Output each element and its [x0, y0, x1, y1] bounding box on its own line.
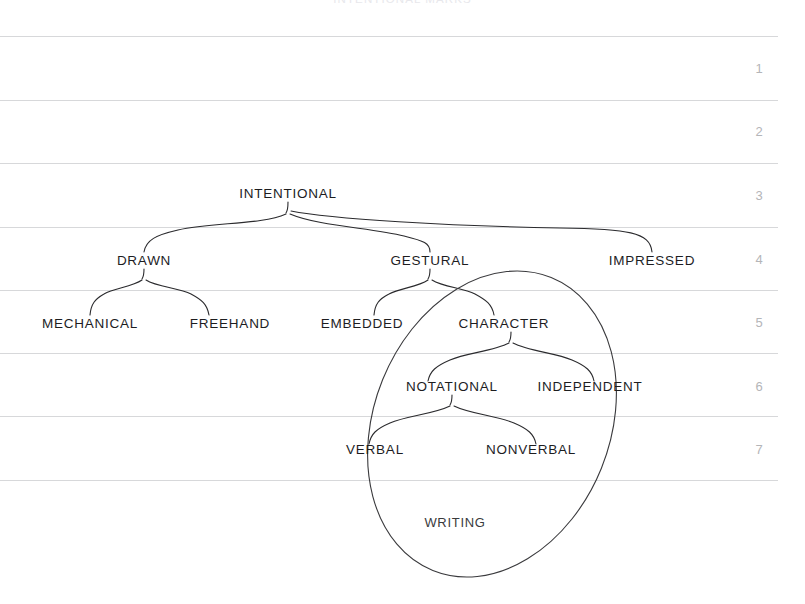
- node-verbal[interactable]: VERBAL: [346, 442, 404, 457]
- node-impressed[interactable]: IMPRESSED: [609, 253, 695, 268]
- figure-page: INTENTIONAL MARKS 1 2 3 4 5 6 7: [0, 0, 805, 604]
- node-independent[interactable]: INDEPENDENT: [537, 379, 642, 394]
- node-mechanical[interactable]: MECHANICAL: [42, 316, 138, 331]
- brace-drawn: [90, 269, 209, 315]
- node-notational[interactable]: NOTATIONAL: [406, 379, 498, 394]
- writing-grouping-ellipse: [323, 233, 660, 604]
- node-embedded[interactable]: EMBEDDED: [321, 316, 404, 331]
- brace-intentional: [144, 202, 652, 252]
- node-nonverbal[interactable]: NONVERBAL: [486, 442, 576, 457]
- node-intentional[interactable]: INTENTIONAL: [239, 186, 337, 201]
- node-character[interactable]: CHARACTER: [459, 316, 550, 331]
- brace-notational: [369, 395, 536, 444]
- node-freehand[interactable]: FREEHAND: [190, 316, 270, 331]
- node-drawn[interactable]: DRAWN: [117, 253, 171, 268]
- group-label-writing: WRITING: [424, 515, 485, 530]
- brace-character: [428, 332, 594, 381]
- brace-gestural: [374, 269, 494, 315]
- node-gestural[interactable]: GESTURAL: [391, 253, 470, 268]
- diagram-artwork: [0, 0, 805, 604]
